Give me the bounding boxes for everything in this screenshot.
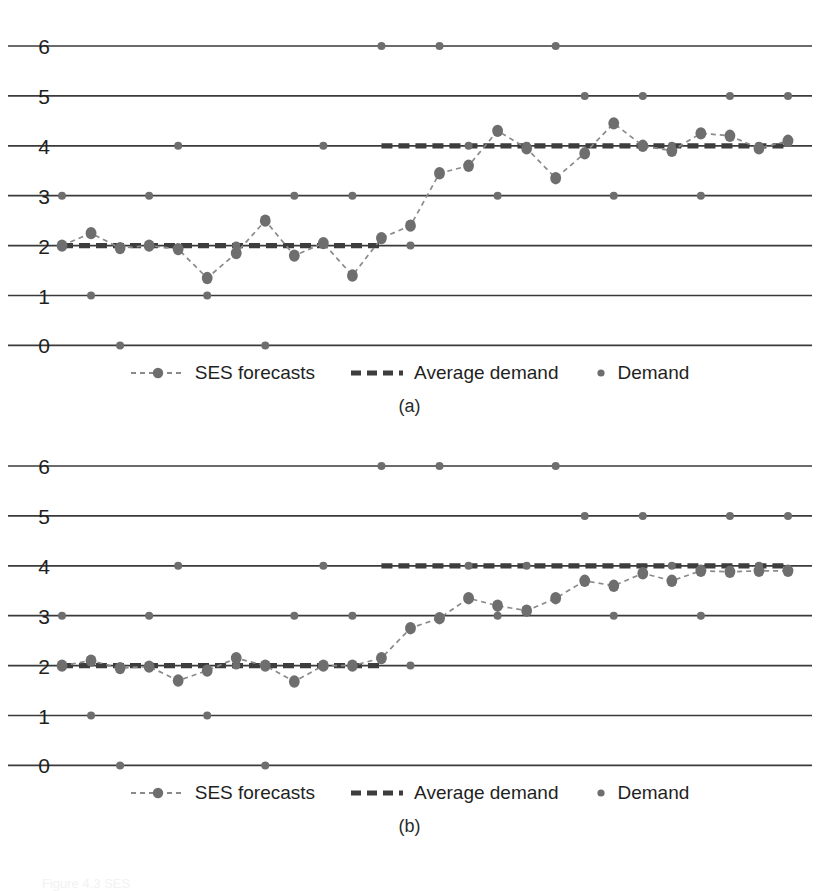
dashed-line-icon <box>349 784 405 802</box>
figure-caption: Figure 4.3 SES <box>42 876 782 891</box>
y-tick-label: 6 <box>38 36 50 57</box>
dashed-line-icon <box>349 364 405 382</box>
y-tick-label: 6 <box>38 456 50 477</box>
legend-label-demand: Demand <box>617 782 689 804</box>
chart-b-legend: SES forecasts Average demand Demand <box>0 782 819 804</box>
chart-b-plot: 0123456 <box>0 420 819 780</box>
y-tick-label: 0 <box>38 335 50 356</box>
legend-item-average: Average demand <box>349 782 558 804</box>
chart-a-legend: SES forecasts Average demand Demand <box>0 362 819 384</box>
legend-item-ses: SES forecasts <box>130 782 315 804</box>
panel-a-caption: (a) <box>0 396 819 417</box>
chart-b-svg <box>0 420 819 780</box>
panel-b-caption: (b) <box>0 816 819 837</box>
legend-item-demand: Demand <box>592 782 689 804</box>
legend-label-ses: SES forecasts <box>195 362 315 384</box>
legend-label-ses: SES forecasts <box>195 782 315 804</box>
legend-label-average: Average demand <box>414 782 558 804</box>
dot-marker-icon <box>592 784 610 802</box>
legend-item-average: Average demand <box>349 362 558 384</box>
dot-marker-icon <box>592 364 610 382</box>
y-tick-label: 3 <box>38 605 50 626</box>
chart-b-y-axis: 0123456 <box>0 420 60 780</box>
y-tick-label: 1 <box>38 285 50 306</box>
chart-a-y-axis: 0123456 <box>0 0 60 360</box>
legend-label-average: Average demand <box>414 362 558 384</box>
y-tick-label: 3 <box>38 185 50 206</box>
legend-label-demand: Demand <box>617 362 689 384</box>
y-tick-label: 2 <box>38 235 50 256</box>
y-tick-label: 0 <box>38 755 50 776</box>
chart-a-svg <box>0 0 819 360</box>
y-tick-label: 2 <box>38 655 50 676</box>
legend-item-demand: Demand <box>592 362 689 384</box>
y-tick-label: 4 <box>38 555 50 576</box>
panel-a: 0123456 SES forecasts <box>0 0 819 430</box>
chart-a-plot: 0123456 <box>0 0 819 360</box>
y-tick-label: 4 <box>38 135 50 156</box>
y-tick-label: 5 <box>38 505 50 526</box>
y-tick-label: 5 <box>38 85 50 106</box>
legend-item-ses: SES forecasts <box>130 362 315 384</box>
ses-line-marker-icon <box>130 364 186 382</box>
y-tick-label: 1 <box>38 705 50 726</box>
ses-line-marker-icon <box>130 784 186 802</box>
panel-b: 0123456 SES forecasts <box>0 420 819 850</box>
